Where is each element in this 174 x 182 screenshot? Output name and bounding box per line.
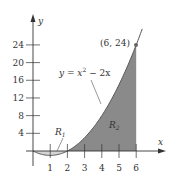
x-axis-arrow-icon bbox=[158, 149, 166, 154]
r1-label: R1 bbox=[54, 127, 66, 138]
region-r2 bbox=[67, 45, 136, 151]
y-tick-label: 8 bbox=[18, 111, 24, 121]
y-tick-label: 24 bbox=[13, 40, 25, 50]
x-tick-label: 1 bbox=[47, 163, 53, 173]
x-tick-label: 4 bbox=[99, 163, 105, 173]
equation-label: y = x2 − 2x bbox=[58, 66, 110, 78]
r1-pointer bbox=[57, 138, 63, 151]
x-tick-label: 3 bbox=[82, 163, 88, 173]
shaded-regions bbox=[33, 45, 136, 156]
area-chart: 1234564812162024 y x (6, 24) y = x2 − 2x… bbox=[0, 0, 174, 182]
y-axis-label: y bbox=[37, 16, 44, 26]
y-tick-label: 4 bbox=[18, 128, 24, 138]
equation-main: y = x bbox=[58, 68, 82, 78]
r1-sub: 1 bbox=[62, 131, 66, 138]
x-axis-label: x bbox=[158, 137, 163, 147]
y-tick-label: 12 bbox=[13, 93, 24, 103]
point-marker bbox=[134, 43, 138, 47]
y-axis-arrow-icon bbox=[31, 14, 36, 22]
x-tick-label: 2 bbox=[65, 163, 71, 173]
y-tick-label: 20 bbox=[13, 58, 25, 68]
y-tick-label: 16 bbox=[13, 75, 25, 85]
x-tick-label: 5 bbox=[116, 163, 122, 173]
r2-sub: 2 bbox=[115, 124, 120, 131]
equation-pointer bbox=[91, 80, 101, 104]
x-tick-label: 6 bbox=[133, 163, 139, 173]
point-annotation: (6, 24) bbox=[100, 38, 130, 48]
equation-tail: − 2x bbox=[86, 68, 110, 78]
